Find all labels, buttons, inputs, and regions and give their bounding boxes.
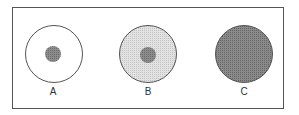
outer-circle-c: [216, 26, 273, 83]
panel-b: [120, 26, 177, 83]
panel-c: [216, 26, 273, 83]
inner-dot-a: [45, 46, 61, 62]
circles-diagram: [0, 0, 299, 115]
label-a: A: [43, 87, 63, 97]
label-c: C: [234, 87, 254, 97]
panel-a: [26, 26, 83, 83]
inner-dot-b: [140, 47, 156, 63]
label-b: B: [138, 87, 158, 97]
